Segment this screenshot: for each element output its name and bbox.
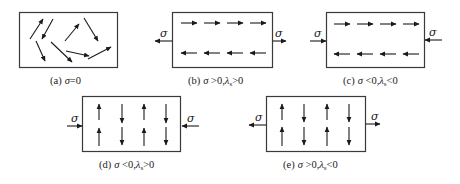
caption-d: (d)σ <0,λs>0 — [99, 159, 154, 172]
panel-c-box — [327, 13, 425, 68]
caption-e: (e)σ >0,λs<0 — [283, 159, 338, 172]
caption-a: (a)σ=0 — [50, 75, 81, 87]
stress-label-left: σ — [160, 27, 168, 40]
panel-c: σ σ (c)σ <0,λs<0 — [310, 13, 442, 89]
caption-c: (c)σ <0,λs<0 — [343, 75, 398, 88]
panel-e: σ σ (e)σ >0,λs<0 — [249, 97, 380, 173]
magnetic-domain-diagram: (a)σ=0 σ σ (b)σ >0,λs>0 — [0, 0, 460, 184]
stress-label-right: σ — [371, 110, 379, 123]
panel-a: (a)σ=0 — [20, 13, 118, 88]
panel-b-box — [173, 13, 273, 68]
stress-label-left: σ — [314, 27, 322, 40]
panel-b: σ σ (b)σ >0,λs>0 — [155, 13, 286, 89]
panel-e-box — [267, 97, 366, 152]
caption-b: (b)σ >0,λs>0 — [188, 75, 243, 88]
stress-label-right: σ — [275, 27, 283, 40]
panel-d: σ σ (d)σ <0,λs>0 — [67, 97, 199, 173]
stress-label-left: σ — [71, 112, 79, 125]
stress-label-left: σ — [255, 111, 263, 124]
stress-label-right: σ — [429, 26, 437, 39]
stress-label-right: σ — [187, 112, 195, 125]
